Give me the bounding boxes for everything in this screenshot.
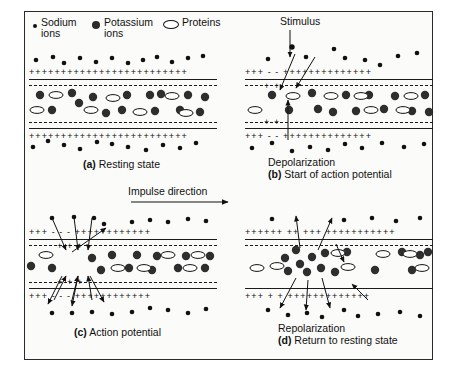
panel-d-outside-bottom-charge: +++ + + +++++++++++++ [245, 292, 370, 301]
panel-a-inside-bottom-dashes [29, 122, 217, 123]
legend-potassium-line2: ions [104, 28, 123, 40]
impulse-direction-label: Impulse direction [128, 186, 207, 198]
panel-c-caption-text: Action potential [89, 326, 161, 338]
potassium-ion-icon [92, 21, 100, 29]
panel-c-caption-letter: (c) [74, 326, 87, 338]
figure-canvas: Sodium ions Potassium ions Proteins Stim… [0, 0, 458, 375]
protein-icon [163, 20, 179, 29]
panel-b-inside-bottom-plus: + + [264, 118, 280, 127]
panel-a-inside-top-dashes [29, 85, 217, 86]
panel-d-outside-top-charge: ++++++ ++ +++ +++++++++++ [245, 228, 396, 237]
figure-border [24, 11, 433, 360]
panel-b-caption-text: Start of action potential [284, 168, 391, 180]
panel-c-membrane-top [29, 239, 217, 240]
legend-proteins-label: Proteins [182, 17, 221, 29]
sodium-ion-icon [33, 24, 37, 28]
panel-d-caption: (d) Return to resting state [278, 334, 398, 346]
panel-c-outside-top-charge: +++ - - - ++++++++++++ [29, 228, 151, 237]
panel-a-caption-text: Resting state [99, 158, 160, 170]
panel-d-membrane-top [245, 239, 433, 240]
panel-b-membrane-top [245, 79, 433, 80]
panel-b-outside-bottom-charge: +++ - - ++++++++++++++ [245, 132, 372, 141]
panel-c-inside-top-plus: + + + [57, 242, 83, 251]
panel-a-outside-top-charge: +++++++++++++++++++++++++ [29, 68, 188, 77]
panel-c-inside-bottom-plus: + + + [57, 278, 83, 287]
panel-a-caption-letter: (a) [83, 158, 96, 170]
panel-b-caption: (b) Start of action potential [268, 168, 392, 180]
stimulus-label: Stimulus [280, 16, 320, 28]
panel-a-membrane-top [29, 79, 217, 80]
panel-c-membrane-bottom [29, 288, 217, 289]
panel-b-membrane-bottom [245, 128, 433, 129]
panel-d-caption-text: Return to resting state [294, 334, 397, 346]
panel-a-membrane-bottom [29, 128, 217, 129]
panel-c-caption: (c) Action potential [74, 326, 161, 338]
panel-d-inside-top-dashes [245, 245, 433, 246]
panel-d-caption-line1: Repolarization [278, 322, 345, 334]
panel-c-outside-bottom-charge: +++ - - - ++++++++++++ [29, 292, 151, 301]
panel-b-caption-letter: (b) [268, 168, 281, 180]
legend-sodium-line2: ions [41, 28, 60, 40]
panel-d-caption-letter: (d) [278, 334, 291, 346]
panel-b-caption-line1: Depolarization [268, 156, 335, 168]
panel-a-caption: (a) Resting state [83, 158, 160, 170]
panel-d-membrane-bottom [245, 288, 433, 289]
panel-a-outside-bottom-charge: +++++++++++++++++++++++++ [29, 132, 188, 141]
panel-b-inside-top-plus: + + [264, 82, 280, 91]
panel-b-outside-top-charge: +++ - - ++++++++++++++ [245, 68, 372, 77]
